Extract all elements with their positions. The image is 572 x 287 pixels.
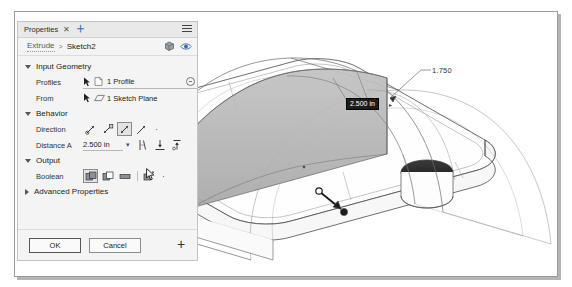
label-from: From	[36, 94, 83, 103]
panel-tab-strip: Properties ✕ ＋	[18, 22, 197, 38]
direction-more-icon[interactable]: ·	[155, 125, 158, 134]
taper-angle-icon[interactable]	[135, 138, 150, 152]
select-arrow-icon	[83, 77, 91, 87]
dimension-label-1750[interactable]: 1.750	[432, 66, 452, 75]
cancel-button[interactable]: Cancel	[89, 238, 141, 253]
section-title-behavior: Behavior	[36, 109, 68, 118]
breadcrumb: Extrude > Sketch2	[18, 38, 197, 56]
section-title-output: Output	[36, 156, 60, 165]
distance-a-input[interactable]: 2.500 in	[83, 140, 123, 151]
document-cutoff-text: the tool and a Distance value of 2.500 f…	[34, 0, 353, 2]
chevron-down-icon[interactable]: ▾	[126, 141, 130, 149]
chevron-right-icon	[25, 189, 29, 195]
sketch-plane-icon	[94, 94, 103, 103]
boolean-intersect-icon[interactable]	[117, 169, 132, 183]
direction-one-side-icon[interactable]	[83, 122, 98, 136]
section-title-advanced-properties: Advanced Properties	[34, 187, 108, 196]
chevron-down-icon	[25, 159, 31, 163]
chevron-down-icon	[25, 65, 31, 69]
panel-body: Input Geometry Profiles 1 Profile	[18, 56, 197, 199]
panel-footer: OK Cancel +	[18, 229, 197, 260]
profile-icon	[94, 77, 103, 86]
label-direction: Direction	[36, 125, 83, 134]
direction-two-sides-icon[interactable]	[134, 122, 149, 136]
section-title-input-geometry: Input Geometry	[36, 62, 91, 71]
visibility-eye-icon[interactable]	[180, 42, 191, 52]
direction-symmetric-icon[interactable]	[117, 122, 132, 136]
breadcrumb-item-sketch2[interactable]: Sketch2	[67, 42, 96, 51]
select-arrow-icon	[83, 93, 91, 103]
from-selection-field[interactable]: 1 Sketch Plane	[83, 92, 197, 105]
properties-panel: Properties ✕ ＋ Extrude > Sketch2	[17, 21, 198, 261]
document-text-strip: the tool and a Distance value of 2.500 f…	[0, 0, 572, 9]
boolean-more-icon[interactable]: ·	[162, 172, 165, 181]
row-direction: Direction ·	[18, 121, 197, 137]
row-boolean: Boolean ·	[18, 168, 197, 184]
breadcrumb-separator: >	[59, 43, 63, 50]
profiles-value: 1 Profile	[107, 77, 135, 86]
active-dimension-value: 2.500 in	[350, 99, 375, 109]
add-feature-button[interactable]: +	[173, 236, 189, 252]
profiles-selection-field[interactable]: 1 Profile	[83, 75, 197, 89]
mouse-cursor	[146, 168, 155, 181]
section-header-behavior[interactable]: Behavior	[18, 106, 197, 121]
add-tab-icon[interactable]: ＋	[76, 22, 85, 37]
screenshot-frame: 1.750 2.500 in ▸ Properties ✕ ＋ Extrude …	[14, 11, 558, 277]
hamburger-menu-icon[interactable]	[182, 25, 192, 34]
active-dimension-caret-icon[interactable]: ▸	[386, 100, 394, 108]
chevron-down-icon	[25, 112, 31, 116]
ok-button[interactable]: OK	[29, 238, 81, 253]
section-header-advanced-properties[interactable]: Advanced Properties	[18, 184, 197, 199]
row-from: From 1 Sketch Plane	[18, 90, 197, 106]
label-boolean: Boolean	[36, 172, 83, 181]
boolean-cut-icon[interactable]	[100, 169, 115, 183]
section-header-input-geometry[interactable]: Input Geometry	[18, 59, 197, 74]
active-dimension-input[interactable]: 2.500 in	[347, 99, 378, 109]
row-distance-a: Distance A 2.500 in ▾	[18, 137, 197, 153]
boolean-group-separator	[137, 171, 138, 181]
row-profiles: Profiles 1 Profile	[18, 74, 197, 90]
label-profiles: Profiles	[36, 78, 83, 87]
breadcrumb-item-extrude[interactable]: Extrude	[27, 41, 55, 52]
clear-selection-icon[interactable]	[186, 77, 195, 86]
solid-body-icon[interactable]	[164, 41, 175, 51]
to-all-icon[interactable]	[169, 138, 184, 152]
to-object-icon[interactable]	[152, 138, 167, 152]
tab-properties[interactable]: Properties	[24, 22, 58, 37]
close-icon[interactable]: ✕	[63, 22, 70, 37]
from-value: 1 Sketch Plane	[107, 94, 157, 103]
boolean-join-icon[interactable]	[83, 169, 98, 183]
label-distance-a: Distance A	[36, 141, 83, 150]
section-header-output[interactable]: Output	[18, 153, 197, 168]
direction-flipped-icon[interactable]	[100, 122, 115, 136]
